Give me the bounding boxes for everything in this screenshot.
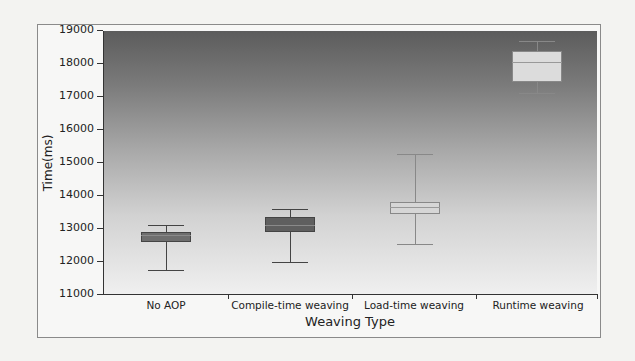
- whisker-cap-lower: [148, 270, 184, 271]
- median-line: [265, 225, 315, 226]
- whisker-cap-lower: [519, 93, 555, 94]
- y-tick-label: 17000: [40, 90, 94, 102]
- median-line: [141, 235, 191, 236]
- y-tick-label: 13000: [40, 222, 94, 234]
- x-axis-title: Weaving Type: [103, 314, 597, 329]
- x-tick-label: Load-time weaving: [352, 299, 476, 311]
- whisker-cap-upper: [272, 209, 308, 210]
- x-tick-label: Compile-time weaving: [228, 299, 352, 311]
- x-tick-label: No AOP: [104, 299, 228, 311]
- y-tick-label: 12000: [40, 255, 94, 267]
- whisker-cap-lower: [272, 262, 308, 263]
- y-axis-line: [103, 31, 104, 295]
- whisker-cap-upper: [397, 154, 433, 155]
- median-line: [390, 207, 440, 208]
- y-tick-label: 18000: [40, 57, 94, 69]
- x-axis-line: [103, 294, 597, 295]
- y-tick-label: 19000: [40, 24, 94, 36]
- whisker-cap-upper: [148, 225, 184, 226]
- whisker-cap-lower: [397, 244, 433, 245]
- whisker-line: [415, 154, 416, 243]
- box-iqr: [512, 51, 562, 82]
- box-iqr: [141, 232, 191, 242]
- whisker-cap-upper: [519, 41, 555, 42]
- x-tick-label: Runtime weaving: [476, 299, 600, 311]
- y-axis-title: Time(ms): [41, 135, 55, 192]
- median-line: [512, 62, 562, 63]
- y-tick-label: 16000: [40, 123, 94, 135]
- y-tick-label: 11000: [40, 288, 94, 300]
